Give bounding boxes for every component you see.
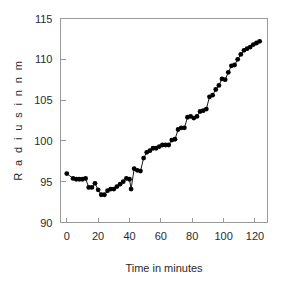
data-point-marker bbox=[166, 143, 171, 148]
data-point-marker bbox=[235, 57, 240, 62]
data-point-marker bbox=[127, 177, 132, 182]
x-tick-label: 20 bbox=[92, 230, 104, 242]
x-tick-label: 100 bbox=[214, 230, 232, 242]
data-point-marker bbox=[96, 187, 101, 192]
x-axis-ticks bbox=[67, 218, 255, 223]
x-tick-label: 0 bbox=[64, 230, 70, 242]
data-point-marker bbox=[83, 176, 88, 181]
data-point-marker bbox=[138, 169, 143, 174]
data-point-marker bbox=[64, 171, 69, 176]
data-point-marker bbox=[216, 83, 221, 88]
data-point-marker bbox=[93, 181, 98, 186]
chart-figure: 9095100105110115 020406080100120 Time in… bbox=[0, 0, 284, 284]
data-point-marker bbox=[226, 70, 231, 75]
data-point-marker bbox=[257, 39, 262, 44]
x-axis-title: Time in minutes bbox=[125, 262, 203, 274]
x-tick-label: 80 bbox=[186, 230, 198, 242]
data-point-marker bbox=[141, 156, 146, 161]
data-point-marker bbox=[232, 63, 237, 68]
data-point-marker bbox=[195, 114, 200, 119]
data-point-marker bbox=[238, 52, 243, 57]
x-tick-label: 120 bbox=[246, 230, 264, 242]
y-axis-ticks bbox=[61, 19, 66, 223]
y-tick-label: 100 bbox=[34, 135, 52, 147]
plot-frame bbox=[61, 19, 268, 223]
data-point-marker bbox=[173, 137, 178, 142]
radius-vs-time-chart: 9095100105110115 020406080100120 Time in… bbox=[0, 0, 284, 284]
y-axis-tick-labels: 9095100105110115 bbox=[34, 13, 52, 229]
data-point-marker bbox=[89, 185, 94, 190]
y-tick-label: 95 bbox=[40, 176, 52, 188]
y-tick-label: 90 bbox=[40, 217, 52, 229]
y-axis-title: R a d i u s i n n m bbox=[12, 59, 24, 181]
x-tick-label: 40 bbox=[123, 230, 135, 242]
data-point-marker bbox=[182, 125, 187, 130]
data-point-marker bbox=[210, 93, 215, 98]
y-tick-label: 110 bbox=[35, 53, 53, 65]
x-tick-label: 60 bbox=[155, 230, 167, 242]
y-tick-label: 115 bbox=[35, 13, 53, 25]
data-point-marker bbox=[129, 187, 134, 192]
data-point-marker bbox=[204, 107, 209, 112]
data-point-marker bbox=[102, 192, 107, 197]
data-series-radius bbox=[64, 39, 262, 197]
x-axis-tick-labels: 020406080100120 bbox=[64, 230, 264, 242]
data-point-marker bbox=[223, 77, 228, 82]
y-tick-label: 105 bbox=[34, 94, 52, 106]
data-point-marker bbox=[213, 87, 218, 92]
